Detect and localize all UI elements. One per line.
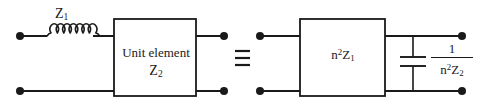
terminal-dot-right-top (458, 32, 466, 40)
fraction-numerator: 1 (430, 42, 474, 56)
series-impedance-symbol: Z (55, 6, 64, 21)
unit-element-title: Unit element (122, 46, 190, 59)
n2z1-impedance-subscript: 1 (350, 53, 354, 63)
terminal-dot-left-right-top (220, 32, 228, 40)
n2z1-label: n2Z1 (302, 48, 384, 63)
terminal-dot-right-bottom (458, 87, 466, 95)
circuit-equivalence-figure: Z1 Unit element Z2 n2Z1 1 n2Z2 (0, 0, 482, 108)
series-impedance-subscript: 1 (64, 12, 69, 22)
circuit-schematic-svg (0, 0, 482, 108)
terminal-dot-right-left-bottom (256, 87, 264, 95)
fraction-denominator: n2Z2 (430, 60, 474, 80)
identical-to-symbol-icon (235, 51, 250, 65)
series-impedance-label: Z1 (55, 7, 68, 23)
unit-element-impedance-subscript: 2 (158, 69, 163, 79)
fraction-bar (431, 57, 473, 58)
unit-element-impedance-symbol: Z (149, 63, 158, 78)
terminal-dot-left-top (16, 32, 24, 40)
terminal-dot-left-right-bottom (220, 87, 228, 95)
unit-element-impedance-label: Z2 (122, 64, 190, 80)
terminal-dot-right-left-top (256, 32, 264, 40)
fraction-denominator-impedance-subscript: 2 (459, 68, 463, 78)
inductor-z1-icon (47, 24, 100, 36)
terminal-dot-left-bottom (16, 87, 24, 95)
shunt-admittance-fraction: 1 n2Z2 (430, 42, 474, 80)
